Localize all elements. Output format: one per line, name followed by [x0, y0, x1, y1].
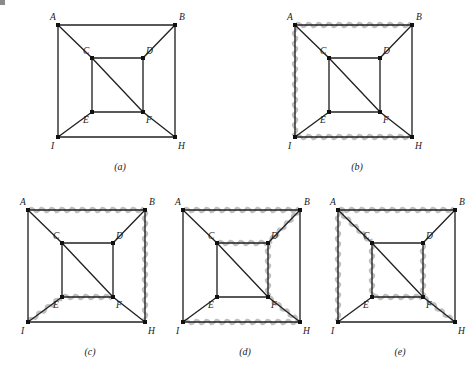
edge-C-F	[92, 58, 143, 112]
vertex-E	[327, 110, 331, 114]
vertex-label-B: B	[416, 12, 422, 22]
vertex-I	[181, 320, 185, 324]
vertex-C	[215, 241, 219, 245]
vertex-label-B: B	[459, 197, 465, 207]
graph-panel-c: ABCDEFIH(c)	[14, 192, 164, 362]
vertex-A	[336, 208, 340, 212]
edge-C-F	[329, 58, 380, 112]
vertex-label-E: E	[207, 300, 214, 310]
vertex-D	[378, 56, 382, 60]
vertex-label-C: C	[83, 46, 90, 56]
graph-diagram-b: ABCDEFIH(b)	[281, 7, 431, 177]
vertex-label-D: D	[145, 46, 153, 56]
vertex-B	[410, 23, 414, 27]
vertex-I	[26, 320, 30, 324]
vertex-B	[298, 208, 302, 212]
edge-layer-b	[295, 25, 412, 137]
vertex-label-E: E	[82, 115, 89, 125]
vertex-label-D: D	[382, 46, 390, 56]
highlight-layer-c	[29, 208, 147, 319]
panel-caption-d: (d)	[239, 346, 251, 358]
figure-root: ABCDEFIH(a)ABCDEFIH(b)ABCDEFIH(c)ABCDEFI…	[0, 0, 472, 368]
vertex-label-F: F	[115, 300, 122, 310]
vertex-label-E: E	[362, 300, 369, 310]
corner-mark	[0, 0, 5, 5]
vertex-label-C: C	[208, 231, 215, 241]
vertex-B	[143, 208, 147, 212]
panel-caption-c: (c)	[84, 346, 96, 358]
graph-diagram-a: ABCDEFIH(a)	[44, 7, 194, 177]
edge-layer-d	[183, 210, 300, 322]
vertex-I	[56, 135, 60, 139]
vertex-label-F: F	[270, 300, 277, 310]
vertex-label-I: I	[175, 326, 180, 336]
graph-panel-b: ABCDEFIH(b)	[281, 7, 431, 177]
vertex-I	[293, 135, 297, 139]
vertex-C	[327, 56, 331, 60]
vertex-I	[336, 320, 340, 324]
edge-C-F	[372, 243, 423, 297]
vertex-label-I: I	[287, 141, 292, 151]
vertex-A	[181, 208, 185, 212]
vertex-E	[60, 295, 64, 299]
vertex-label-H: H	[414, 141, 423, 151]
vertex-label-A: A	[174, 197, 181, 207]
vertex-E	[90, 110, 94, 114]
vertex-D	[421, 241, 425, 245]
vertex-label-B: B	[304, 197, 310, 207]
graph-diagram-d: ABCDEFIH(d)	[169, 192, 319, 362]
vertex-label-H: H	[302, 326, 311, 336]
vertex-label-C: C	[53, 231, 60, 241]
graph-diagram-c: ABCDEFIH(c)	[14, 192, 164, 362]
vertex-label-D: D	[115, 231, 123, 241]
edge-C-F	[217, 243, 268, 297]
highlight-layer-d	[186, 208, 300, 324]
vertex-label-A: A	[19, 197, 26, 207]
vertex-label-C: C	[363, 231, 370, 241]
vertex-label-I: I	[330, 326, 335, 336]
vertex-label-C: C	[320, 46, 327, 56]
vertex-label-A: A	[286, 12, 293, 22]
vertex-label-B: B	[179, 12, 185, 22]
vertex-F	[266, 295, 270, 299]
vertex-H	[410, 135, 414, 139]
edge-layer-e	[338, 210, 455, 322]
graph-diagram-e: ABCDEFIH(e)	[324, 192, 472, 362]
vertex-F	[421, 295, 425, 299]
vertex-label-A: A	[329, 197, 336, 207]
vertex-D	[141, 56, 145, 60]
vertex-E	[215, 295, 219, 299]
vertex-B	[453, 208, 457, 212]
panel-caption-e: (e)	[394, 346, 406, 358]
vertex-label-D: D	[425, 231, 433, 241]
vertex-label-H: H	[177, 141, 186, 151]
vertex-A	[56, 23, 60, 27]
vertex-E	[370, 295, 374, 299]
vertex-A	[26, 208, 30, 212]
panel-caption-b: (b)	[351, 161, 363, 173]
panel-caption-a: (a)	[114, 161, 126, 173]
edge-C-F	[62, 243, 113, 297]
vertex-A	[293, 23, 297, 27]
vertex-label-D: D	[270, 231, 278, 241]
vertex-label-I: I	[50, 141, 55, 151]
vertex-label-F: F	[145, 115, 152, 125]
vertex-D	[266, 241, 270, 245]
vertex-C	[60, 241, 64, 245]
vertex-C	[370, 241, 374, 245]
vertex-H	[298, 320, 302, 324]
vertex-label-A: A	[49, 12, 56, 22]
vertex-C	[90, 56, 94, 60]
vertex-H	[453, 320, 457, 324]
vertex-H	[173, 135, 177, 139]
graph-panel-a: ABCDEFIH(a)	[44, 7, 194, 177]
vertex-label-E: E	[52, 300, 59, 310]
vertex-D	[111, 241, 115, 245]
vertex-label-H: H	[457, 326, 466, 336]
vertex-label-I: I	[20, 326, 25, 336]
vertex-F	[378, 110, 382, 114]
vertex-label-B: B	[149, 197, 155, 207]
vertex-F	[111, 295, 115, 299]
vertex-B	[173, 23, 177, 27]
graph-panel-d: ABCDEFIH(d)	[169, 192, 319, 362]
